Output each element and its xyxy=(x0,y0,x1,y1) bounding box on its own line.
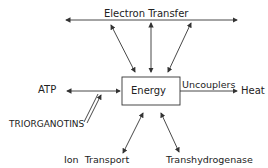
triorganotins-label: TRIORGANOTINS xyxy=(9,120,84,129)
electron-transfer-label: Electron Transfer xyxy=(104,9,188,19)
energy-label: Energy xyxy=(131,86,166,96)
uncouplers-label: Uncouplers xyxy=(182,80,235,90)
transhydrogenase-label: Transhydrogenase xyxy=(166,155,253,165)
heat-label: Heat xyxy=(241,86,265,96)
ion-transport-label: Ion Transport xyxy=(64,155,129,165)
atp-label: ATP xyxy=(38,85,56,95)
energy-diagram: Electron Transfer Energy ATP TRIORGANOTI… xyxy=(0,0,268,168)
